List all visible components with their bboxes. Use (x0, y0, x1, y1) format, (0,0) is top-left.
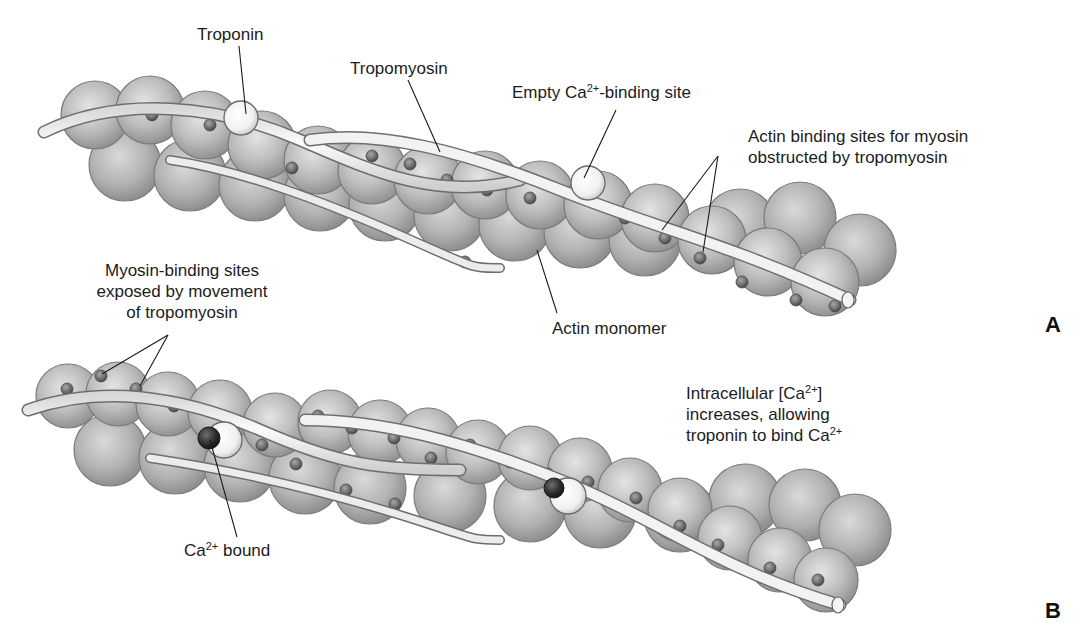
tropomyosin-end-cap (832, 597, 844, 613)
label-line: Intracellular [Ca2+] (686, 383, 842, 404)
label-line: exposed by movement (82, 281, 282, 302)
label-intracellular-ca-increase: Intracellular [Ca2+] increases, allowing… (686, 383, 842, 446)
superscript-charge: 2+ (206, 540, 219, 552)
superscript-charge: 2+ (805, 383, 818, 395)
superscript-charge: 2+ (830, 425, 843, 437)
label-empty-ca-binding-site: Empty Ca2+-binding site (512, 82, 691, 103)
label-line: obstructed by tropomyosin (748, 147, 968, 168)
label-troponin: Troponin (197, 24, 263, 45)
label-line: of tropomyosin (82, 302, 282, 323)
tropomyosin-end-cap (842, 292, 854, 308)
label-text: troponin to bind Ca (686, 426, 830, 445)
label-text: Intracellular [Ca (686, 384, 805, 403)
label-ca-bound: Ca2+ bound (184, 540, 270, 561)
calcium-bound-icon (198, 427, 220, 449)
label-line: Myosin-binding sites (82, 260, 282, 281)
panel-letter-b: B (1045, 598, 1061, 624)
label-text: ] (818, 384, 823, 403)
calcium-bound-icon (544, 478, 564, 498)
label-text: Ca (184, 541, 206, 560)
label-line: troponin to bind Ca2+ (686, 425, 842, 446)
label-myosin-binding-sites-exposed: Myosin-binding sites exposed by movement… (82, 260, 282, 323)
label-actin-monomer: Actin monomer (552, 318, 666, 339)
label-text: Troponin (197, 25, 263, 44)
troponin-empty-ca-site (571, 166, 605, 200)
label-text: bound (218, 541, 270, 560)
label-actin-binding-sites-obstructed: Actin binding sites for myosin obstructe… (748, 126, 968, 168)
troponin-sphere (224, 101, 258, 135)
label-text: -binding site (599, 83, 691, 102)
panel-letter-text: B (1045, 598, 1061, 623)
label-line: Actin binding sites for myosin (748, 126, 968, 147)
label-text: Empty Ca (512, 83, 587, 102)
label-line: increases, allowing (686, 404, 842, 425)
panel-b-filament (28, 335, 891, 613)
panel-letter-a: A (1045, 312, 1061, 338)
panel-letter-text: A (1045, 312, 1061, 337)
label-text: Actin monomer (552, 319, 666, 338)
superscript-charge: 2+ (587, 82, 600, 94)
label-text: Tropomyosin (350, 59, 448, 78)
label-tropomyosin: Tropomyosin (350, 58, 448, 79)
